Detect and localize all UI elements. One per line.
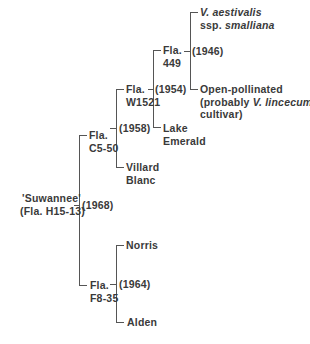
node-villard-blanc-line1: Villard [126,161,159,174]
node-villard-blanc: Villard Blanc [126,161,159,186]
root-name-line1: 'Suwannee' [20,192,85,205]
root-name: 'Suwannee' (Fla. H15-13) [20,192,85,217]
connector-to-f449 [153,50,161,51]
connector-to-c550 [79,135,87,136]
node-aestivalis-ssp: ssp. [200,19,225,31]
node-f835-line2: F8-35 [90,292,118,305]
node-f449-line2: 449 [163,57,182,70]
connector-to-w1521 [116,89,124,90]
connector-to-f835 [79,285,87,286]
connector-to-alden [116,322,124,323]
node-c550-line2: C5-50 [89,142,119,155]
node-w1521-year: (1954) [155,83,187,96]
connector-f449-tick [184,51,191,52]
node-aestivalis: V. aestivalis ssp. smalliana [200,6,275,31]
node-aestivalis-line2: ssp. smalliana [200,19,275,32]
node-lake-emerald-line1: Lake [163,122,206,135]
root-year: (1968) [82,199,114,212]
node-aestivalis-subspecies: smalliana [225,19,275,31]
node-f449: Fla. 449 [163,44,182,69]
node-alden: Alden [127,316,157,329]
node-aestivalis-line1: V. aestivalis [200,6,275,19]
connector-to-lake-emerald [153,127,161,128]
connector-to-norris [116,245,124,246]
node-open-pollinated-species: V. lincecumi [253,96,310,108]
node-f449-line1: Fla. [163,44,182,57]
node-c550-line1: Fla. [89,129,119,142]
node-w1521-line2: W1521 [126,96,160,109]
node-lake-emerald: Lake Emerald [163,122,206,147]
node-norris: Norris [126,239,158,252]
node-f835-year: (1964) [119,278,151,291]
node-c550: Fla. C5-50 [89,129,119,154]
node-lake-emerald-line2: Emerald [163,135,206,148]
node-c550-year: (1958) [119,122,151,135]
node-open-pollinated-line1: Open-pollinated [200,83,310,96]
connector-to-villard [116,167,124,168]
connector-to-open-pollinated [190,89,198,90]
node-f835-line1: Fla. [90,279,118,292]
connector-to-aestivalis [190,12,198,13]
node-open-pollinated-line3: cultivar) [200,108,310,121]
node-open-pollinated: Open-pollinated (probably V. lincecumi c… [200,83,310,121]
node-f835: Fla. F8-35 [90,279,118,304]
node-open-pollinated-line2: (probably V. lincecumi [200,96,310,109]
node-open-pollinated-probably: (probably [200,96,253,108]
root-name-line2: (Fla. H15-13) [20,205,85,218]
node-f449-year: (1946) [192,45,224,58]
node-villard-blanc-line2: Blanc [126,174,159,187]
